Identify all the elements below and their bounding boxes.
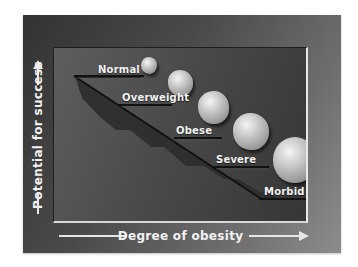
step-label-obese: Obese <box>176 125 212 136</box>
arrow-right-icon <box>299 231 309 241</box>
step-label-morbid: Morbid <box>264 186 305 197</box>
pebble-normal <box>141 57 157 74</box>
y-axis-line-bottom <box>37 192 39 214</box>
x-axis-label: Degree of obesity <box>118 229 244 243</box>
y-axis: Potential for success <box>23 47 53 222</box>
y-axis-label: Potential for success <box>31 61 45 209</box>
step-label-overweight: Overweight <box>122 92 189 103</box>
x-axis: Degree of obesity <box>53 226 308 246</box>
step-label-normal: Normal <box>98 64 140 75</box>
diagram-panel: Normal Overweight Obese Severe Morbid <box>53 47 308 223</box>
pebble-obese <box>198 91 229 124</box>
pebble-morbid <box>273 137 308 183</box>
diagram-frame: Normal Overweight Obese Severe Morbid <box>23 15 341 253</box>
x-axis-line-right <box>249 235 301 237</box>
pebble-severe <box>233 113 269 150</box>
step-label-severe: Severe <box>216 154 256 165</box>
